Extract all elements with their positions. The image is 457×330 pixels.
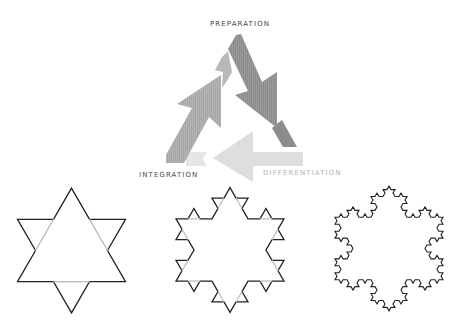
koch-guide-line	[36, 219, 54, 250]
koch-guide-line	[90, 219, 108, 250]
koch-guide-line	[236, 292, 242, 302]
koch-guide-line	[182, 260, 188, 270]
koch-iteration-2-icon	[176, 188, 284, 313]
cycle-arrows	[0, 0, 457, 190]
koch-guide-line	[218, 198, 224, 208]
label-differentiation: DIFFERENTIATION	[263, 169, 342, 177]
koch-guide-line	[218, 292, 224, 302]
koch-guide-line	[182, 229, 188, 239]
koch-guide-line	[272, 260, 278, 270]
label-integration: INTEGRATION	[139, 171, 198, 179]
koch-guide-line	[236, 198, 242, 208]
koch-iteration-1-outline	[18, 188, 126, 313]
koch-guide-line	[272, 229, 278, 239]
label-preparation: PREPARATION	[210, 20, 270, 28]
arrow-preparation-to-differentiation-icon	[228, 34, 297, 147]
koch-iteration-1-icon	[18, 188, 126, 313]
koch-iteration-2-outline	[176, 188, 284, 313]
arrow-integration-to-preparation-icon	[166, 51, 232, 163]
koch-snowflakes	[0, 180, 457, 330]
cycle-diagram: PREPARATION INTEGRATION DIFFERENTIATION	[0, 0, 457, 190]
koch-iteration-3-outline	[335, 186, 443, 311]
koch-iteration-3-icon	[335, 186, 443, 311]
